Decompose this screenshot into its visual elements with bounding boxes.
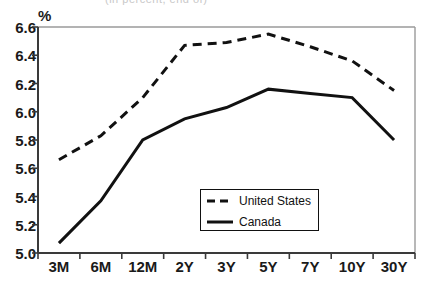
yield-curve-chart: (in percent, end of) % 5.05.25.45.65.86.… xyxy=(0,0,429,283)
x-axis-tick-label: 6M xyxy=(90,258,111,275)
legend-item-united-states: United States xyxy=(201,190,318,211)
x-axis-tick-label: 7Y xyxy=(301,258,319,275)
x-axis-tick-label: 10Y xyxy=(339,258,366,275)
legend-item-canada: Canada xyxy=(201,211,318,232)
x-axis-tick-label: 3M xyxy=(49,258,70,275)
plot-area xyxy=(0,0,429,283)
chart-legend: United States Canada xyxy=(200,189,319,231)
x-axis-tick-label: 3Y xyxy=(217,258,235,275)
x-axis-tick-label: 30Y xyxy=(381,258,408,275)
legend-label-canada: Canada xyxy=(239,215,281,229)
x-axis-tick-label: 5Y xyxy=(259,258,277,275)
dashed-line-sample xyxy=(206,195,234,207)
x-axis-tick-label: 2Y xyxy=(175,258,193,275)
legend-label-united-states: United States xyxy=(239,194,311,208)
solid-line-sample xyxy=(206,216,234,228)
x-axis-tick-label: 12M xyxy=(128,258,157,275)
